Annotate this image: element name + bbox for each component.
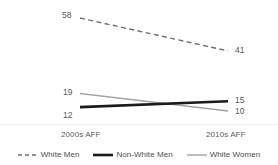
legend-label-white-men: White Men bbox=[41, 151, 80, 159]
axis-tick-label-left: 2000s AFF bbox=[61, 131, 101, 139]
legend-swatch-dashed-line-icon bbox=[18, 151, 38, 159]
legend-swatch-solid-thin-line-icon bbox=[187, 151, 207, 159]
chart-plot-area bbox=[0, 0, 278, 165]
value-label-non-white-men-right: 15 bbox=[235, 96, 245, 105]
value-label-white-men-left: 58 bbox=[62, 11, 72, 20]
legend-separator bbox=[0, 124, 278, 125]
series-line-white-men bbox=[80, 18, 228, 51]
legend-label-non-white-men: Non-White Men bbox=[116, 151, 172, 159]
value-label-white-women-left: 19 bbox=[63, 88, 73, 97]
slope-chart: 58 41 19 10 12 15 2000s AFF 2010s AFF Wh… bbox=[0, 0, 278, 165]
value-label-white-women-right: 10 bbox=[235, 107, 245, 116]
legend-swatch-solid-bold-line-icon bbox=[93, 151, 113, 159]
value-label-white-men-right: 41 bbox=[235, 46, 245, 55]
legend-item-non-white-men[interactable]: Non-White Men bbox=[93, 151, 172, 159]
legend-item-white-women[interactable]: White Women bbox=[187, 151, 261, 159]
chart-legend: White Men Non-White Men White Women bbox=[0, 148, 278, 162]
axis-tick-label-right: 2010s AFF bbox=[206, 131, 246, 139]
legend-label-white-women: White Women bbox=[210, 151, 261, 159]
legend-item-white-men[interactable]: White Men bbox=[18, 151, 80, 159]
value-label-non-white-men-left: 12 bbox=[63, 111, 73, 120]
